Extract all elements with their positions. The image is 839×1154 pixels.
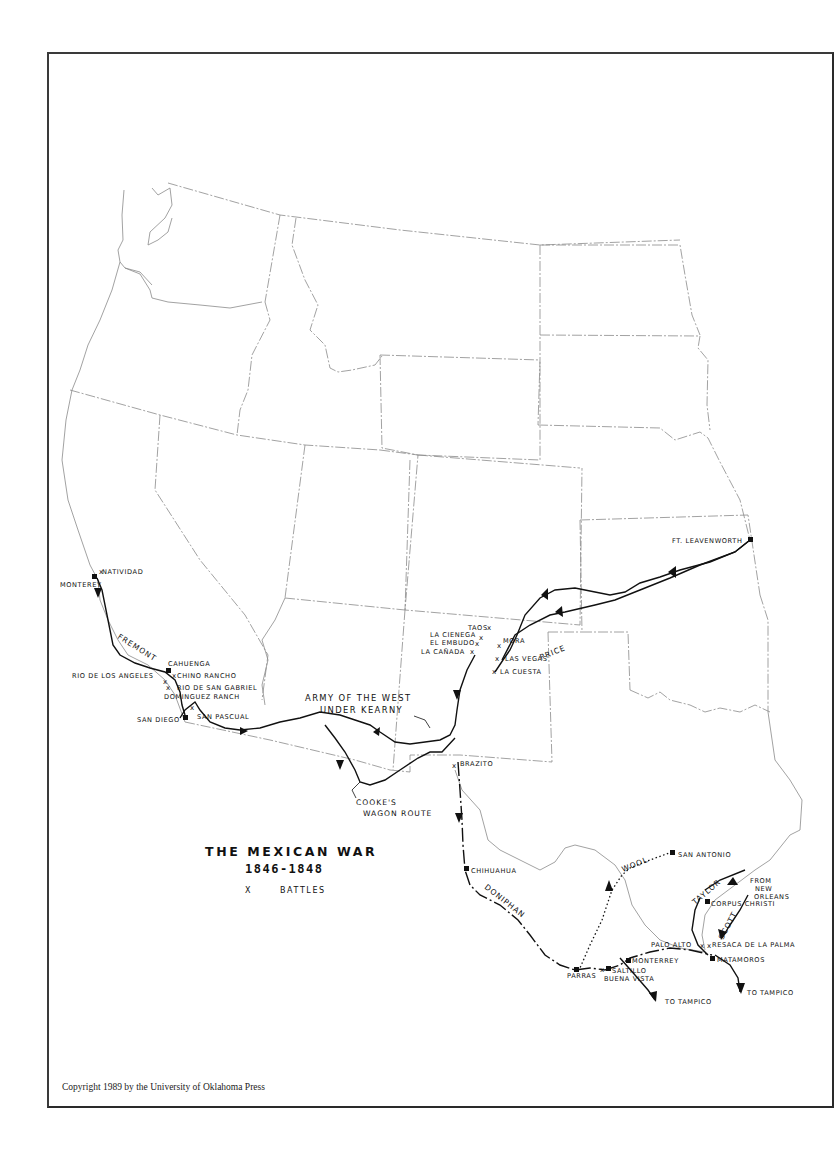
label-saltillo: SALTILLO xyxy=(612,967,647,975)
corpus-christi-marker xyxy=(705,899,710,904)
label-doniphan: DONIPHAN xyxy=(483,882,527,919)
legend-battle-symbol: X xyxy=(245,886,252,895)
route-arrows xyxy=(94,566,745,1002)
label-brazito: BRAZITO xyxy=(460,760,493,768)
label-san-antonio: SAN ANTONIO xyxy=(678,851,731,859)
label-cahuenga: CAHUENGA xyxy=(168,660,210,668)
label-matamoros: MATAMOROS xyxy=(717,956,765,964)
svg-text:x: x xyxy=(190,704,194,712)
map-title: THE MEXICAN WAR xyxy=(205,844,377,859)
label-chino-rancho: CHINO RANCHO xyxy=(177,672,236,680)
label-palo-alto: PALO ALTO xyxy=(651,941,692,949)
saltillo-marker xyxy=(606,966,611,971)
svg-text:x: x xyxy=(172,672,176,680)
label-cookes-2: WAGON ROUTE xyxy=(363,809,432,818)
label-from: FROM xyxy=(750,877,772,885)
label-rio-de-san-gabriel: RIO DE SAN GABRIEL xyxy=(177,684,257,692)
ft-leavenworth-marker xyxy=(748,537,753,542)
san-antonio-marker xyxy=(670,850,675,855)
label-buena-vista: BUENA VISTA xyxy=(604,975,654,983)
label-monterey: MONTEREY xyxy=(60,581,102,589)
label-la-cuesta: LA CUESTA xyxy=(500,668,542,676)
label-la-canada: LA CAÑADA xyxy=(421,647,465,656)
monterrey-marker xyxy=(626,958,631,963)
mexican-war-map: x x x x x x x x x x x x x x x x FT. LEAV… xyxy=(0,0,839,1154)
svg-text:x: x xyxy=(452,762,456,770)
label-rio-de-los-angeles: RIO DE LOS ANGELES xyxy=(72,672,154,680)
place-markers xyxy=(92,537,753,972)
label-san-diego: SAN DIEGO xyxy=(137,716,180,724)
label-resaca-de-la-palma: RESACA DE LA PALMA xyxy=(712,941,795,949)
label-chihuahua: CHIHUAHUA xyxy=(471,867,517,875)
label-new: NEW xyxy=(755,885,772,893)
svg-text:x: x xyxy=(495,655,499,663)
svg-text:x: x xyxy=(479,634,483,642)
svg-text:x: x xyxy=(497,642,501,650)
label-parras: PARRAS xyxy=(567,972,596,980)
legend-battle-label: BATTLES xyxy=(280,886,326,895)
monterey-marker xyxy=(92,574,97,579)
chihuahua-marker xyxy=(464,866,469,871)
cahuenga-marker xyxy=(166,668,171,673)
label-mora: MORA xyxy=(503,637,525,645)
svg-text:x: x xyxy=(166,684,170,692)
label-army-west-2: UNDER KEARNY xyxy=(320,705,403,715)
label-dominguez-ranch: DOMINGUEZ RANCH xyxy=(164,693,240,701)
label-wool: WOOL xyxy=(620,855,649,874)
label-army-west-1: ARMY OF THE WEST xyxy=(305,693,411,703)
matamoros-marker xyxy=(710,956,715,961)
battle-markers: x x x x x x x x x x x x x x x x xyxy=(99,568,711,974)
svg-text:x: x xyxy=(707,942,711,950)
map-years: 1846-1848 xyxy=(245,862,324,876)
label-orleans: ORLEANS xyxy=(754,893,789,901)
label-to-tampico-1: TO TAMPICO xyxy=(664,998,712,1006)
label-natividad: NATIVIDAD xyxy=(102,568,143,576)
svg-text:x: x xyxy=(470,648,474,656)
svg-text:x: x xyxy=(600,966,604,974)
label-scott: SCOTT xyxy=(717,910,739,941)
copyright-notice: Copyright 1989 by the University of Okla… xyxy=(62,1082,265,1092)
label-to-tampico-2: TO TAMPICO xyxy=(746,989,794,997)
svg-text:x: x xyxy=(700,942,704,950)
label-san-pascual: SAN PASCUAL xyxy=(197,713,249,721)
map-title-block: THE MEXICAN WAR 1846-1848 X BATTLES xyxy=(205,844,377,895)
svg-text:x: x xyxy=(492,668,496,676)
svg-text:x: x xyxy=(475,640,479,648)
label-monterrey: MONTERREY xyxy=(632,957,679,965)
label-fremont: FREMONT xyxy=(116,632,158,663)
label-corpus-christi: CORPUS CHRISTI xyxy=(711,900,775,908)
san-diego-marker xyxy=(183,715,188,720)
label-cookes-1: COOKE'S xyxy=(356,798,397,807)
military-routes xyxy=(97,540,750,1000)
label-el-embudo: EL EMBUDO xyxy=(430,639,475,647)
label-price: PRICE xyxy=(538,643,567,662)
place-labels: FT. LEAVENWORTH NATIVIDAD MONTEREY CAHUE… xyxy=(60,537,795,983)
label-la-cienega: LA CIENEGA xyxy=(430,631,476,639)
label-ft-leavenworth: FT. LEAVENWORTH xyxy=(672,537,742,545)
